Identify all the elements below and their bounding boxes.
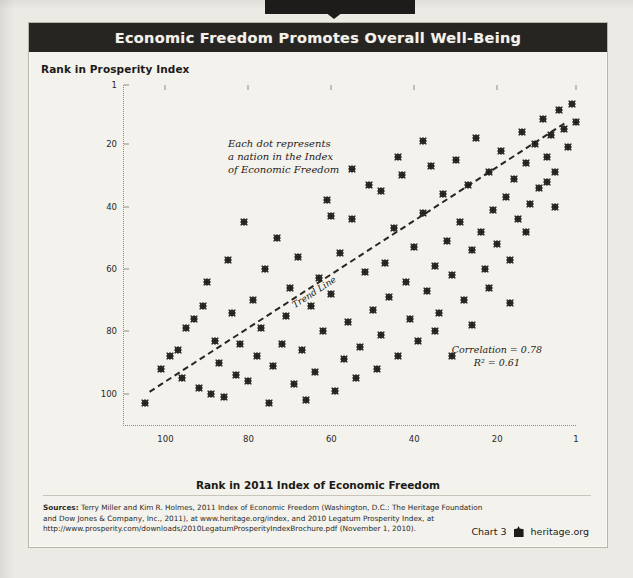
scatter-point — [531, 141, 538, 148]
y-axis-tick-label: 100 — [101, 389, 124, 399]
scatter-point — [548, 131, 555, 138]
y-axis-tick-mark — [124, 144, 129, 145]
sources-label: Sources: — [43, 503, 79, 512]
scatter-point — [573, 119, 580, 126]
y-axis-tick-mark — [124, 269, 129, 270]
y-axis-tick-mark — [124, 331, 129, 332]
scatter-point — [394, 153, 401, 160]
note-line-2: a nation in the Index — [228, 150, 339, 163]
scatter-point — [224, 256, 231, 263]
correlation-value: Correlation = 0.78 — [452, 343, 542, 356]
y-axis-tick-label: 1 — [112, 80, 124, 90]
scatter-point — [539, 116, 546, 123]
scatter-point — [332, 387, 339, 394]
sources-line-3: http://www.prosperity.com/downloads/2010… — [43, 524, 416, 533]
x-axis-tick-mark — [248, 85, 249, 90]
scatter-point — [423, 287, 430, 294]
page-background: Economic Freedom Promotes Overall Well-B… — [0, 0, 633, 578]
plot-wrapper: Each dot represents a nation in the Inde… — [43, 59, 599, 463]
y-axis-tick-mark — [124, 85, 129, 86]
chart-footer: Chart 3 heritage.org — [471, 526, 589, 537]
scatter-point — [365, 181, 372, 188]
scatter-point — [552, 169, 559, 176]
scatter-point — [249, 297, 256, 304]
scatter-point — [448, 272, 455, 279]
scatter-point — [407, 315, 414, 322]
scatter-point — [523, 228, 530, 235]
attribution-link[interactable]: heritage.org — [531, 526, 589, 537]
scatter-point — [485, 169, 492, 176]
scatter-point — [510, 175, 517, 182]
plot-area: Each dot represents a nation in the Inde… — [123, 85, 576, 426]
y-axis-tick-mark — [124, 206, 129, 207]
scatter-point — [232, 372, 239, 379]
scatter-point — [527, 200, 534, 207]
scatter-point — [253, 353, 260, 360]
footer-divider — [43, 495, 591, 496]
scatter-point — [353, 375, 360, 382]
scatter-point — [432, 262, 439, 269]
x-axis-tick-mark — [165, 85, 166, 90]
scatter-point — [166, 353, 173, 360]
chart-number: Chart 3 — [471, 526, 506, 537]
scatter-point — [245, 378, 252, 385]
note-line-3: of Economic Freedom — [228, 163, 339, 176]
scatter-point — [291, 381, 298, 388]
dot-explanation-note: Each dot represents a nation in the Inde… — [228, 137, 339, 176]
scatter-point — [415, 337, 422, 344]
scatter-point — [336, 250, 343, 257]
scatter-point — [419, 138, 426, 145]
scatter-point — [444, 237, 451, 244]
scatter-point — [564, 144, 571, 151]
scatter-point — [320, 328, 327, 335]
scatter-point — [344, 319, 351, 326]
scatter-point — [183, 325, 190, 332]
chart-title: Economic Freedom Promotes Overall Well-B… — [115, 30, 522, 46]
sources-line-1: Terry Miller and Kim R. Holmes, 2011 Ind… — [79, 503, 483, 512]
scatter-point — [174, 347, 181, 354]
y-axis-tick-label: 80 — [106, 326, 124, 336]
page-top-banner-fragment — [265, 0, 415, 14]
scatter-point — [270, 362, 277, 369]
scatter-point — [490, 206, 497, 213]
scatter-point — [378, 331, 385, 338]
scatter-point — [369, 306, 376, 313]
scatter-point — [390, 225, 397, 232]
scatter-point — [340, 356, 347, 363]
y-axis-tick-mark — [124, 393, 129, 394]
x-axis-tick-mark — [331, 85, 332, 90]
scatter-point — [485, 284, 492, 291]
scatter-point — [311, 368, 318, 375]
scatter-point — [257, 325, 264, 332]
x-axis-tick-mark — [414, 85, 415, 90]
scatter-point — [461, 297, 468, 304]
scatter-point — [286, 284, 293, 291]
scatter-point — [216, 359, 223, 366]
heritage-building-icon — [514, 526, 524, 537]
scatter-point — [303, 397, 310, 404]
scatter-point — [299, 347, 306, 354]
scatter-point — [191, 315, 198, 322]
scatter-point — [419, 209, 426, 216]
x-axis-tick-mark — [576, 85, 577, 90]
scatter-point — [552, 203, 559, 210]
y-axis-tick-label: 20 — [106, 139, 124, 149]
r-squared-value: R² = 0.61 — [452, 356, 542, 369]
scatter-point — [307, 303, 314, 310]
scatter-point — [506, 300, 513, 307]
scatter-point — [456, 219, 463, 226]
scatter-point — [349, 216, 356, 223]
scatter-point — [208, 390, 215, 397]
x-axis-tick-label: 80 — [243, 434, 254, 444]
scatter-point — [440, 191, 447, 198]
scatter-point — [237, 340, 244, 347]
scatter-point — [282, 312, 289, 319]
scatter-point — [465, 181, 472, 188]
scatter-point — [261, 266, 268, 273]
scatter-point — [195, 384, 202, 391]
x-axis-tick-label: 1 — [573, 434, 578, 444]
scatter-point — [523, 159, 530, 166]
scatter-point — [373, 365, 380, 372]
scatter-point — [212, 337, 219, 344]
scatter-point — [494, 241, 501, 248]
